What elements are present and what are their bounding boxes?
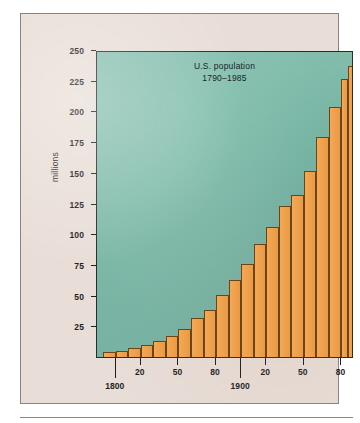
y-axis-tick-label: 50 <box>36 292 84 302</box>
bar <box>204 310 217 357</box>
x-axis-tick-label: 80 <box>336 367 346 377</box>
bar <box>291 195 304 357</box>
chart-title-line-2: 1790–1985 <box>97 73 352 85</box>
bar <box>348 66 353 357</box>
x-axis-tick-mark <box>177 358 178 365</box>
bar <box>266 227 279 357</box>
bar <box>116 351 129 358</box>
x-axis-major-tick-mark <box>115 358 116 378</box>
plot-area: U.S. population 1790–1985 <box>96 51 353 358</box>
bar <box>191 318 204 357</box>
y-axis-tick-mark <box>91 326 96 327</box>
bar <box>316 137 329 357</box>
figure-panel: millions U.S. population 1790–1985 25507… <box>20 13 339 404</box>
y-axis-tick-mark <box>91 204 96 205</box>
y-axis-tick-mark <box>91 81 96 82</box>
y-axis-tick-label: 200 <box>36 107 84 117</box>
y-axis-tick-label: 175 <box>36 138 84 148</box>
chart-title-line-1: U.S. population <box>97 61 352 73</box>
y-axis-tick-mark <box>91 265 96 266</box>
y-axis-tick-mark <box>91 296 96 297</box>
y-axis-tick-mark <box>91 234 96 235</box>
x-axis-tick-mark <box>340 358 341 365</box>
bottom-rule <box>20 417 353 418</box>
y-axis-tick-mark <box>91 142 96 143</box>
y-axis-tick-mark <box>91 111 96 112</box>
y-axis-tick-label: 250 <box>36 46 84 56</box>
x-axis-tick-label: 80 <box>210 367 220 377</box>
x-axis-tick-label: 50 <box>173 367 183 377</box>
y-axis-tick-label: 25 <box>36 322 84 332</box>
bar <box>229 280 242 357</box>
bar <box>329 107 342 357</box>
bar <box>103 352 116 357</box>
bar <box>128 348 141 357</box>
x-axis-tick-mark <box>303 358 304 365</box>
x-axis-major-tick-mark <box>240 358 241 378</box>
x-axis-tick-label: 20 <box>260 367 270 377</box>
x-axis-tick-mark <box>140 358 141 365</box>
y-axis-tick-mark <box>91 50 96 51</box>
bar <box>141 345 154 357</box>
bar <box>279 206 292 357</box>
x-axis-tick-label: 50 <box>298 367 308 377</box>
bars-layer <box>97 52 352 357</box>
bar <box>254 244 267 357</box>
bar <box>153 341 166 357</box>
x-axis-tick-mark <box>215 358 216 365</box>
bar <box>178 329 191 357</box>
x-axis-tick-label: 1800 <box>105 381 124 391</box>
bar <box>216 295 229 357</box>
y-axis-tick-label: 75 <box>36 261 84 271</box>
y-axis-tick-label: 225 <box>36 77 84 87</box>
y-axis-tick-mark <box>91 173 96 174</box>
y-axis-tick-label: 150 <box>36 169 84 179</box>
chart-title: U.S. population 1790–1985 <box>97 61 352 84</box>
x-axis-tick-label: 20 <box>135 367 145 377</box>
x-axis-tick-label: 1900 <box>231 381 250 391</box>
x-axis-tick-mark <box>265 358 266 365</box>
bar <box>166 336 179 357</box>
bar <box>304 171 317 357</box>
bar <box>241 264 254 357</box>
y-axis-tick-label: 125 <box>36 200 84 210</box>
y-axis-tick-label: 100 <box>36 230 84 240</box>
